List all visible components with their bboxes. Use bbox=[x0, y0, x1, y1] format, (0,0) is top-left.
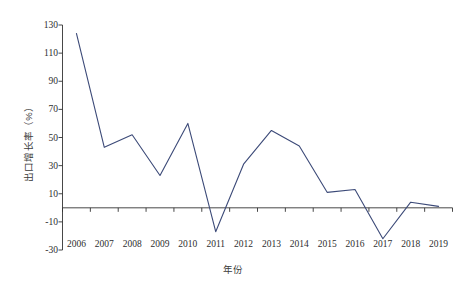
axes bbox=[59, 25, 453, 250]
line-chart: 出口增长率（%） 年份 -30-101030507090110130 20062… bbox=[0, 0, 467, 288]
plot-area bbox=[0, 0, 467, 288]
